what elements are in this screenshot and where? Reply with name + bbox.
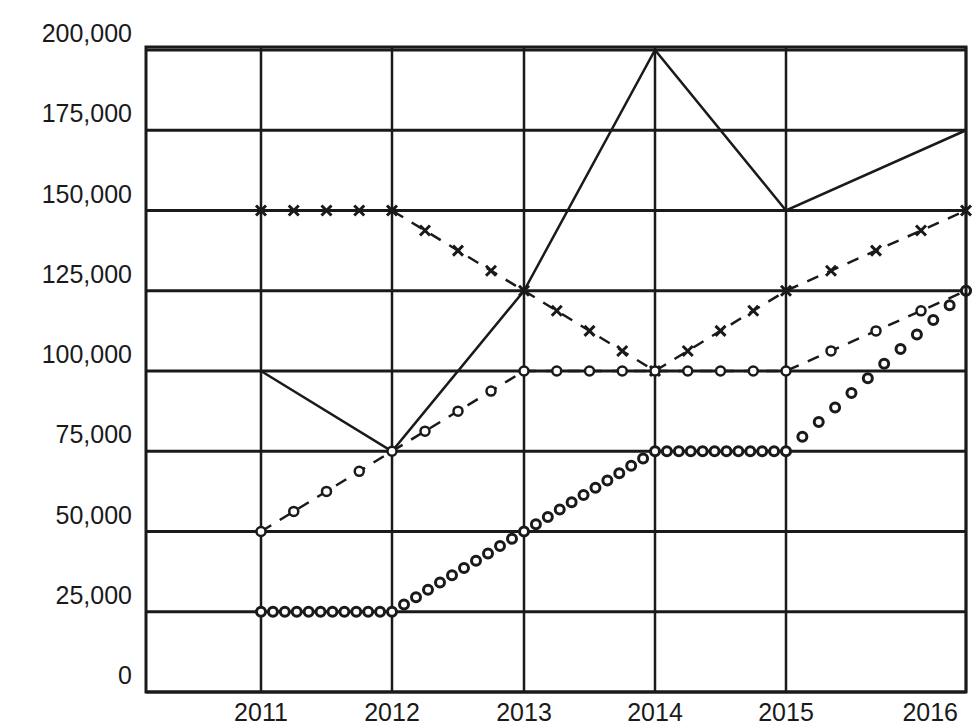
dot-marker-icon xyxy=(484,549,493,558)
circle-marker-icon xyxy=(872,326,881,335)
dot-marker-icon xyxy=(531,520,540,529)
x-marker-icon xyxy=(683,346,693,356)
dot-marker-icon xyxy=(508,534,517,543)
dot-marker-icon xyxy=(567,498,576,507)
dot-marker-icon xyxy=(268,607,277,616)
line-chart: 025,00050,00075,000100,000125,000150,000… xyxy=(0,0,974,727)
dot-marker-icon xyxy=(460,563,469,572)
dot-marker-icon xyxy=(734,447,743,456)
y-tick-label: 0 xyxy=(118,661,132,689)
series-2 xyxy=(257,286,971,536)
circle-marker-icon xyxy=(782,367,791,376)
dot-marker-icon xyxy=(280,607,289,616)
x-tick-label: 2014 xyxy=(627,698,683,726)
x-tick-label: 2012 xyxy=(364,698,420,726)
dot-marker-icon xyxy=(472,556,481,565)
dot-marker-icon xyxy=(352,607,361,616)
dot-marker-icon xyxy=(340,607,349,616)
circle-marker-icon xyxy=(520,367,529,376)
dot-marker-icon xyxy=(496,542,505,551)
y-tick-label: 200,000 xyxy=(42,19,132,47)
series-0 xyxy=(261,50,966,451)
dot-marker-icon xyxy=(722,447,731,456)
circle-marker-icon xyxy=(618,367,627,376)
y-tick-label: 175,000 xyxy=(42,99,132,127)
dot-marker-icon xyxy=(364,607,373,616)
dot-marker-icon xyxy=(304,607,313,616)
circle-marker-icon xyxy=(257,527,266,536)
x-tick-label: 2015 xyxy=(758,698,814,726)
circle-marker-icon xyxy=(683,367,692,376)
circle-marker-icon xyxy=(388,447,397,456)
dot-marker-icon xyxy=(651,447,660,456)
x-marker-icon xyxy=(871,246,881,256)
dot-marker-icon xyxy=(710,447,719,456)
x-marker-icon xyxy=(748,306,758,316)
dot-marker-icon xyxy=(782,447,791,456)
dot-marker-icon xyxy=(627,461,636,470)
y-axis: 025,00050,00075,000100,000125,000150,000… xyxy=(42,19,132,689)
y-tick-label: 75,000 xyxy=(56,420,132,448)
dot-marker-icon xyxy=(316,607,325,616)
x-marker-icon xyxy=(716,326,726,336)
dot-marker-icon xyxy=(639,454,648,463)
dot-marker-icon xyxy=(400,600,409,609)
circle-marker-icon xyxy=(585,367,594,376)
circle-marker-icon xyxy=(289,507,298,516)
dot-marker-icon xyxy=(798,432,807,441)
dot-marker-icon xyxy=(847,388,856,397)
circle-marker-icon xyxy=(454,407,463,416)
x-marker-icon xyxy=(453,246,463,256)
dot-marker-icon xyxy=(424,585,433,594)
dot-marker-icon xyxy=(543,512,552,521)
circle-marker-icon xyxy=(917,306,926,315)
y-tick-label: 125,000 xyxy=(42,260,132,288)
dot-marker-icon xyxy=(412,593,421,602)
dot-marker-icon xyxy=(388,607,397,616)
x-marker-icon xyxy=(585,326,595,336)
x-tick-label: 2013 xyxy=(496,698,552,726)
dot-marker-icon xyxy=(912,330,921,339)
x-tick-label: 2011 xyxy=(234,698,288,726)
x-marker-icon xyxy=(420,226,430,236)
dot-marker-icon xyxy=(758,447,767,456)
y-tick-label: 150,000 xyxy=(42,180,132,208)
circle-marker-icon xyxy=(355,467,364,476)
dot-marker-icon xyxy=(257,607,266,616)
dot-marker-icon xyxy=(814,418,823,427)
dot-marker-icon xyxy=(929,315,938,324)
dot-marker-icon xyxy=(945,301,954,310)
dot-marker-icon xyxy=(770,447,779,456)
dot-marker-icon xyxy=(831,403,840,412)
y-tick-label: 25,000 xyxy=(56,581,132,609)
dot-marker-icon xyxy=(591,483,600,492)
dot-marker-icon xyxy=(896,345,905,354)
dot-marker-icon xyxy=(686,447,695,456)
x-tick-label: 2016 xyxy=(902,698,958,726)
dot-marker-icon xyxy=(579,491,588,500)
dot-marker-icon xyxy=(698,447,707,456)
dot-marker-icon xyxy=(603,476,612,485)
circle-marker-icon xyxy=(651,367,660,376)
circle-marker-icon xyxy=(749,367,758,376)
circle-marker-icon xyxy=(716,367,725,376)
x-marker-icon xyxy=(552,306,562,316)
circle-marker-icon xyxy=(322,487,331,496)
dot-marker-icon xyxy=(615,469,624,478)
dot-marker-icon xyxy=(436,578,445,587)
circle-marker-icon xyxy=(552,367,561,376)
x-marker-icon xyxy=(826,266,836,276)
dot-marker-icon xyxy=(674,447,683,456)
x-marker-icon xyxy=(916,226,926,236)
dot-marker-icon xyxy=(292,607,301,616)
dot-marker-icon xyxy=(880,359,889,368)
dot-marker-icon xyxy=(746,447,755,456)
dot-marker-icon xyxy=(662,447,671,456)
y-tick-label: 100,000 xyxy=(42,340,132,368)
dot-marker-icon xyxy=(376,607,385,616)
dot-marker-icon xyxy=(555,505,564,514)
x-marker-icon xyxy=(486,266,496,276)
circle-marker-icon xyxy=(487,387,496,396)
x-marker-icon xyxy=(617,346,627,356)
dot-marker-icon xyxy=(863,374,872,383)
